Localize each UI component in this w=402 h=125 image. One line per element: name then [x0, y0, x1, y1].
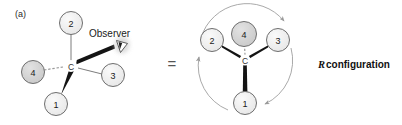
eye-icon — [115, 37, 130, 54]
figure-canvas: (a) C 2 4 — [0, 0, 402, 125]
node-label: 4 — [241, 30, 246, 40]
node-label: 1 — [242, 99, 247, 109]
substituent-node-4-right: 4 — [232, 22, 257, 47]
panel-label: (a) — [15, 9, 26, 19]
node-label: 1 — [53, 100, 58, 110]
bond-c-to-3 — [78, 68, 102, 74]
center-atom-label-right: C — [242, 56, 248, 66]
arc-1-to-2-arrow — [198, 57, 228, 110]
substituent-node-3-right: 3 — [267, 29, 290, 52]
configuration-letter: R — [317, 59, 325, 70]
chirality-figure: (a) C 2 4 — [0, 0, 402, 125]
node-label: 4 — [30, 68, 35, 78]
substituent-node-1-left: 1 — [45, 93, 68, 116]
bond-c-to-observer-wedge — [76, 45, 115, 65]
substituent-node-4-left: 4 — [22, 61, 45, 84]
node-label: 3 — [110, 71, 115, 81]
configuration-caption: R configuration — [317, 59, 390, 70]
configuration-word: configuration — [326, 59, 390, 70]
substituent-node-1-right: 1 — [234, 92, 257, 115]
equals-symbol: = — [168, 55, 177, 72]
substituent-node-2-right: 2 — [201, 29, 224, 52]
right-structure: C 2 4 3 1 — [198, 4, 292, 115]
bond-c-to-4-dashed — [44, 67, 63, 70]
node-label: 2 — [209, 36, 214, 46]
arc-3-to-1-arrow — [265, 48, 293, 104]
left-structure: C 2 4 3 1 — [22, 12, 131, 116]
bond-c-to-1-wedge — [61, 70, 74, 95]
substituent-node-2-left: 2 — [60, 12, 83, 35]
bond-c-to-1-wedge — [243, 65, 248, 92]
center-atom-label-left: C — [68, 62, 74, 72]
substituent-node-3-left: 3 — [102, 64, 125, 87]
node-label: 2 — [68, 19, 73, 29]
observer-label: Observer — [89, 28, 131, 39]
node-label: 3 — [275, 36, 280, 46]
